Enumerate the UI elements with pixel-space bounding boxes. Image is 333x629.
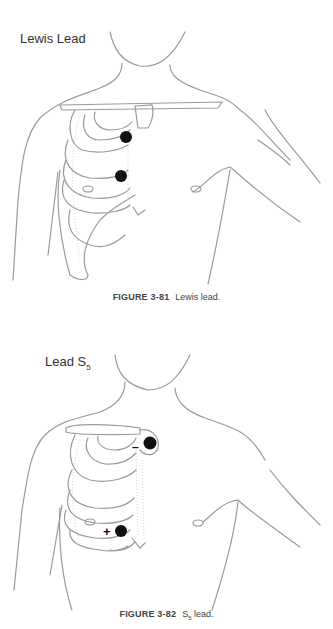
electrode-positive [115, 525, 127, 537]
figure-number: FIGURE 3-82 [119, 609, 176, 619]
electrode-lower [115, 170, 127, 182]
figure-lewis-lead: Lewis Lead FIGURE 3-81Lewis lead. [0, 0, 333, 300]
lead-label-main: Lead S [45, 354, 86, 369]
lead-label: Lewis Lead [20, 31, 86, 46]
figure-caption: FIGURE 3-82S5 lead. [0, 609, 333, 621]
figure-s5-lead: – + Lead S5 FIGURE 3-82S5 lead. [0, 310, 333, 629]
electrode-upper [120, 131, 132, 143]
caption-text: Lewis lead. [175, 292, 220, 302]
negative-sign: – [132, 440, 139, 454]
lead-label: Lead S5 [45, 354, 91, 372]
positive-sign: + [103, 524, 111, 539]
figure-number: FIGURE 3-81 [113, 292, 170, 302]
caption-text-rest: lead. [192, 609, 214, 619]
lead-label-subscript: 5 [86, 363, 90, 372]
figure-caption: FIGURE 3-81Lewis lead. [0, 292, 333, 302]
electrode-negative [144, 437, 157, 450]
